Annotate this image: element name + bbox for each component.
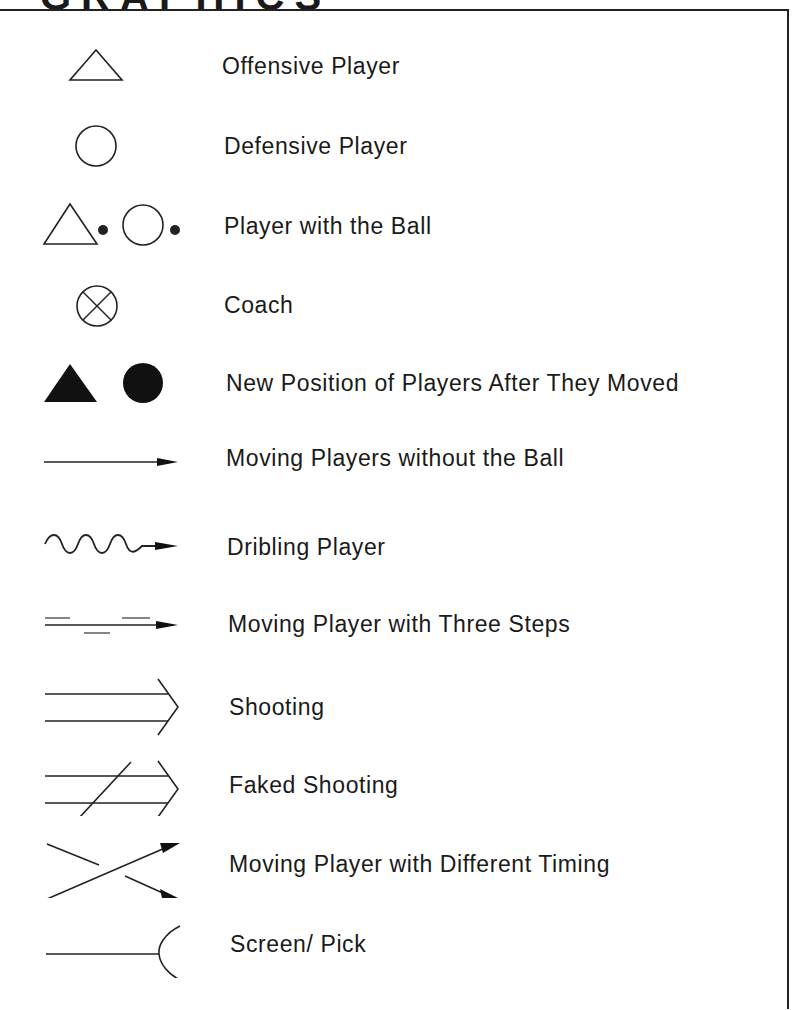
legend-row-screen-pick: Screen/ Pick — [0, 918, 790, 978]
legend-row-coach: Coach — [0, 276, 790, 336]
wavy-arrow-icon — [0, 516, 210, 576]
filled-shapes-icon — [0, 354, 210, 414]
legend-label: Offensive Player — [222, 52, 400, 80]
legend-label: Moving Players without the Ball — [226, 444, 564, 472]
legend-label: Player with the Ball — [224, 212, 432, 240]
legend-label: Moving Player with Three Steps — [228, 610, 570, 638]
legend-label: Dribling Player — [227, 533, 386, 561]
legend-label: Moving Player with Different Timing — [229, 850, 610, 878]
double-arrow-icon — [0, 676, 210, 736]
legend-row-offensive-player: Offensive Player — [0, 38, 790, 98]
legend-label: Shooting — [229, 693, 325, 721]
legend-row-shooting: Shooting — [0, 676, 790, 736]
legend-row-moving-without-ball: Moving Players without the Ball — [0, 432, 790, 492]
open-circle-icon — [0, 118, 210, 178]
legend-row-faked-shooting: Faked Shooting — [0, 756, 790, 816]
circle-x-icon — [0, 276, 210, 336]
legend-label: New Position of Players After They Moved — [226, 369, 679, 397]
legend-label: Coach — [224, 291, 293, 319]
legend-row-three-steps: Moving Player with Three Steps — [0, 596, 790, 656]
legend-row-defensive-player: Defensive Player — [0, 118, 790, 178]
crossing-arrows-icon — [0, 838, 210, 898]
legend-label: Defensive Player — [224, 132, 407, 160]
legend-label: Faked Shooting — [229, 771, 399, 799]
screen-pick-icon — [0, 918, 210, 978]
player-with-ball-icon — [0, 196, 210, 256]
legend-label: Screen/ Pick — [230, 930, 366, 958]
legend-row-different-timing: Moving Player with Different Timing — [0, 838, 790, 898]
step-arrow-icon — [0, 596, 210, 656]
straight-arrow-icon — [0, 432, 210, 492]
legend-row-dribling-player: Dribling Player — [0, 516, 790, 576]
legend-row-new-position: New Position of Players After They Moved — [0, 354, 790, 414]
legend-row-player-with-ball: Player with the Ball — [0, 196, 790, 256]
double-arrow-slashed-icon — [0, 756, 210, 816]
open-triangle-icon — [0, 38, 210, 98]
